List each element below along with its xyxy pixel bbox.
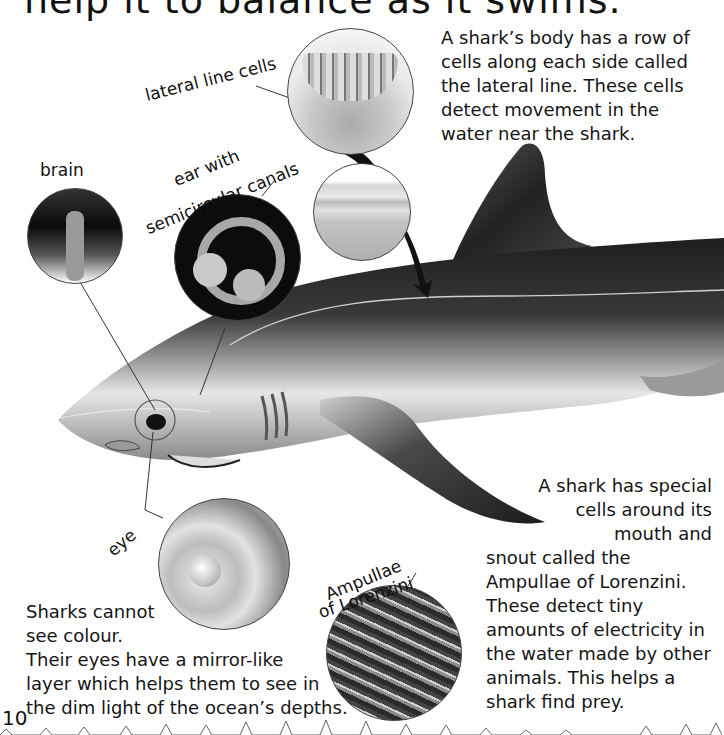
- lateral-line-cells-circle: [287, 28, 414, 155]
- brain-circle: [27, 188, 123, 284]
- ampullae-paragraph-bottom: snout called the Ampullae of Lorenzini. …: [486, 546, 711, 714]
- lateral-line-paragraph: A shark’s body has a row of cells along …: [441, 26, 690, 146]
- label-brain: brain: [40, 160, 84, 180]
- ampullae-paragraph-top: A shark has special cells around its mou…: [526, 474, 712, 546]
- dorsal-fin: [452, 144, 592, 262]
- lateral-line-skin-circle: [313, 163, 411, 261]
- wave-border-decoration: [0, 718, 724, 735]
- eyes-paragraph: Sharks cannot see colour. Their eyes hav…: [26, 600, 348, 720]
